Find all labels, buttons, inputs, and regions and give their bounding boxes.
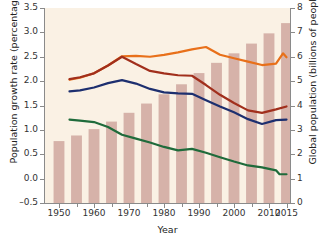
bar (71, 135, 82, 203)
x-tick-label: 1950 (39, 209, 79, 218)
x-tick-minor (77, 204, 78, 207)
x-tick-label: 1990 (179, 209, 219, 218)
bar (229, 53, 240, 203)
plot-area (45, 8, 290, 203)
y-tick-right (291, 203, 295, 204)
bar (176, 84, 187, 203)
y-tick-label-right: 0 (297, 198, 322, 207)
y-tick-left (40, 154, 44, 155)
y-axis-left-title: Population growth rate (percentage) (7, 0, 21, 177)
bar (194, 73, 205, 203)
bar (106, 122, 117, 203)
y-tick-right (291, 81, 295, 82)
x-tick-minor (112, 204, 113, 207)
x-tick-minor (182, 204, 183, 207)
bar (54, 141, 65, 203)
y-tick-right (291, 179, 295, 180)
y-tick-right (291, 32, 295, 33)
y-tick-left (40, 32, 44, 33)
bar (89, 129, 100, 203)
plot-svg (45, 8, 290, 203)
x-axis-line (44, 203, 291, 204)
x-axis-title: Year (45, 224, 290, 235)
y-tick-left (40, 8, 44, 9)
x-tick-label: 2015 (267, 209, 307, 218)
bar (281, 23, 290, 203)
y-tick-label-left: –0.5 (0, 198, 38, 207)
y-tick-right (291, 57, 295, 58)
x-tick-label: 2000 (214, 209, 254, 218)
bar (264, 33, 275, 203)
bar (124, 113, 135, 203)
x-tick-minor (147, 204, 148, 207)
y-axis-left-line (44, 8, 45, 204)
bar-series-global-population (54, 23, 290, 203)
y-tick-right (291, 154, 295, 155)
x-tick-label: 1960 (74, 209, 114, 218)
y-tick-left (40, 203, 44, 204)
x-tick-minor (217, 204, 218, 207)
y-axis-left-title-wrap: Population growth rate (percentage) (7, 0, 21, 177)
y-tick-left (40, 130, 44, 131)
y-tick-left (40, 106, 44, 107)
y-tick-left (40, 81, 44, 82)
y-tick-left (40, 179, 44, 180)
x-tick-label: 1980 (144, 209, 184, 218)
x-tick-minor (252, 204, 253, 207)
x-tick-label: 1970 (109, 209, 149, 218)
bar (246, 44, 257, 203)
y-tick-right (291, 106, 295, 107)
chart-figure: 3.53.02.52.01.51.00.50.0–0.5876543210195… (0, 0, 322, 243)
bar (211, 63, 222, 203)
y-tick-right (291, 130, 295, 131)
y-axis-right-title: Global population (billions of people) (306, 0, 320, 177)
y-tick-right (291, 8, 295, 9)
bar (141, 104, 152, 203)
y-axis-right-title-wrap: Global population (billions of people) (306, 0, 320, 177)
y-tick-left (40, 57, 44, 58)
